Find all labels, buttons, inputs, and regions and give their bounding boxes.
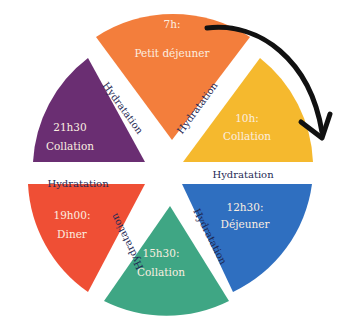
meal-collation-21h30: Collation	[46, 140, 94, 152]
meal-dejeuner: Déjeuner	[221, 218, 271, 230]
time-21h30: 21h30	[53, 121, 86, 133]
time-19h00: 19h00:	[53, 209, 90, 221]
meal-petit-dejeuner: Petit déjeuner	[134, 47, 210, 59]
meal-collation-10h: Collation	[223, 130, 271, 142]
meal-wheel: 7h: Petit déjeuner 10h: Collation 12h30:…	[0, 0, 355, 336]
time-12h30: 12h30:	[226, 201, 263, 213]
time-10h: 10h:	[235, 112, 259, 124]
meal-diner: Diner	[57, 228, 88, 240]
hydratation-label-3: Hydratation	[212, 169, 274, 180]
time-7h: 7h:	[164, 18, 181, 30]
hydratation-label-4: Hydratation	[47, 178, 109, 189]
time-15h30: 15h30:	[142, 247, 179, 259]
